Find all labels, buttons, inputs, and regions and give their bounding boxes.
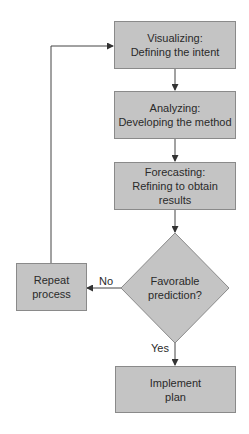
visualizing-step: Visualizing:Defining the intent — [114, 21, 236, 69]
step-desc: Developing the method — [118, 115, 231, 129]
no-label: No — [99, 275, 113, 287]
forecasting-step: Forecasting:Refining to obtainresults — [114, 162, 236, 210]
analyzing-step: Analyzing:Developing the method — [114, 91, 236, 139]
step-title: Analyzing: — [118, 101, 231, 115]
step-desc: Defining the intent — [131, 45, 220, 59]
step-desc: plan — [150, 390, 201, 404]
repeat-step: Repeatprocess — [16, 263, 87, 311]
step-desc-2: results — [132, 193, 218, 207]
yes-label: Yes — [151, 342, 169, 354]
step-desc: process — [32, 287, 71, 301]
decision-label: Favorable prediction? — [135, 274, 215, 302]
step-desc: Refining to obtain — [132, 179, 218, 193]
decision-line-1: Favorable — [135, 274, 215, 288]
step-title: Repeat — [32, 273, 71, 287]
step-title: Visualizing: — [131, 31, 220, 45]
step-title: Forecasting: — [132, 165, 218, 179]
implement-step: Implementplan — [115, 366, 236, 413]
decision-line-2: prediction? — [135, 288, 215, 302]
step-title: Implement — [150, 376, 201, 390]
